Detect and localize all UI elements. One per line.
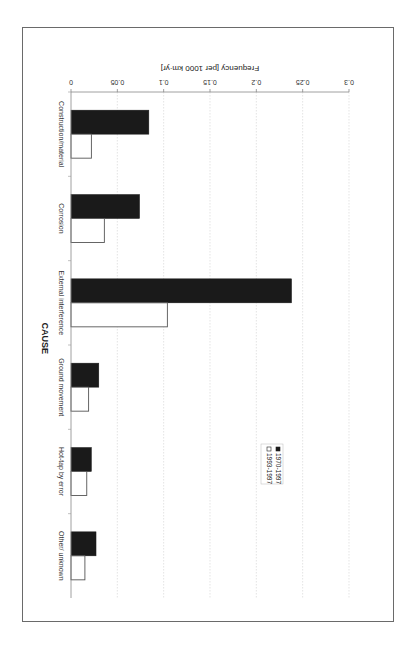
- legend-swatch: [276, 447, 280, 451]
- y-tick-label: 0.15: [203, 79, 217, 86]
- axes: [68, 92, 349, 598]
- bar-1970-1997-ground-movement: [71, 363, 99, 387]
- rotated-chart: 00.050.10.150.20.250.3 Construction/mate…: [23, 28, 395, 623]
- bar-1993-1997-external-interference: [71, 303, 167, 327]
- bar-1993-1997-hot-tap-by-error: [71, 472, 87, 496]
- category-label: Other/ unknown: [58, 531, 65, 581]
- y-tick-label: 0.3: [344, 79, 354, 86]
- bar-1993-1997-ground-movement: [71, 387, 89, 411]
- legend-label: 1993-1997: [266, 453, 273, 484]
- category-label: External interference: [58, 271, 65, 336]
- legend: 1970-19971993-1997: [261, 444, 283, 484]
- bar-1993-1997-other-unknown: [71, 556, 85, 580]
- bar-1993-1997-corrosion: [71, 219, 104, 243]
- legend-label: 1970-1997: [275, 453, 282, 484]
- y-tick-label: 0.25: [296, 79, 310, 86]
- bar-1970-1997-hot-tap-by-error: [71, 448, 91, 472]
- y-tick-label: 0.2: [251, 79, 261, 86]
- category-label: Ground movement: [58, 358, 65, 416]
- y-axis-title: Frequency [per 1000 km·yr]: [161, 64, 259, 73]
- bar-1970-1997-external-interference: [71, 279, 292, 303]
- bars: [71, 110, 292, 580]
- y-tick-label: 0.1: [159, 79, 169, 86]
- y-tick-label: 0: [69, 79, 73, 86]
- bar-1970-1997-corrosion: [71, 195, 140, 219]
- bar-1993-1997-construction-material: [71, 134, 91, 158]
- chart-frame: 00.050.10.150.20.250.3 Construction/mate…: [22, 27, 394, 622]
- bar-chart: 00.050.10.150.20.250.3 Construction/mate…: [23, 28, 395, 623]
- bar-1970-1997-other-unknown: [71, 532, 96, 556]
- gridlines: [71, 89, 349, 598]
- legend-swatch: [267, 447, 271, 451]
- category-label: Corrosion: [58, 203, 65, 233]
- bar-1970-1997-construction-material: [71, 110, 149, 134]
- y-tick-labels: 00.050.10.150.20.250.3: [69, 79, 354, 86]
- category-label: Construction/material: [58, 101, 65, 168]
- category-labels: Construction/materialCorrosionExternal i…: [57, 101, 65, 581]
- y-tick-label: 0.05: [110, 79, 124, 86]
- category-label: Hot-tap by error: [57, 447, 65, 497]
- x-axis-title: CAUSE: [40, 322, 50, 354]
